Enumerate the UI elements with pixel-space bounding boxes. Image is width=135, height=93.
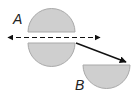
transformation-diagram: A B (0, 0, 135, 93)
label-a: A (12, 11, 22, 27)
semicircle-a-top (28, 9, 75, 32)
semicircle-reflected (28, 43, 75, 66)
label-b: B (75, 77, 84, 93)
translation-arrow (76, 43, 126, 62)
semicircle-b (83, 65, 130, 89)
